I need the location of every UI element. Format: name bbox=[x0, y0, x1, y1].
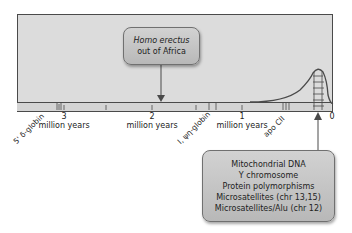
ladder-marks bbox=[313, 72, 324, 110]
recent-markers-arrow bbox=[314, 112, 322, 150]
axis-ticks bbox=[64, 105, 242, 110]
gene-marker-psi-eta-globin bbox=[209, 102, 216, 110]
marker-item: Y chromosome bbox=[203, 170, 334, 181]
homo-erectus-subtitle: out of Africa bbox=[124, 46, 199, 57]
marker-item: Microsatellites/Alu (chr 12) bbox=[203, 203, 334, 214]
marker-item: Mitochondrial DNA bbox=[203, 159, 334, 170]
homo-erectus-title: Homo erectus bbox=[124, 35, 199, 46]
homo-erectus-arrow bbox=[157, 64, 165, 102]
gene-marker-delta-globin bbox=[57, 102, 61, 110]
homo-erectus-callout: Homo erectus out of Africa bbox=[123, 27, 200, 65]
tick-label-1: 1million years bbox=[212, 112, 272, 130]
tick-label-0: 0 bbox=[327, 112, 337, 121]
gene-marker-apo-cii bbox=[283, 102, 289, 110]
tick-label-2: 2million years bbox=[122, 112, 182, 130]
marker-item: Microsatellites (chr 13,15) bbox=[203, 192, 334, 203]
recent-markers-callout: Mitochondrial DNA Y chromosome Protein p… bbox=[202, 150, 335, 222]
population-curve bbox=[250, 69, 333, 104]
marker-item: Protein polymorphisms bbox=[203, 181, 334, 192]
